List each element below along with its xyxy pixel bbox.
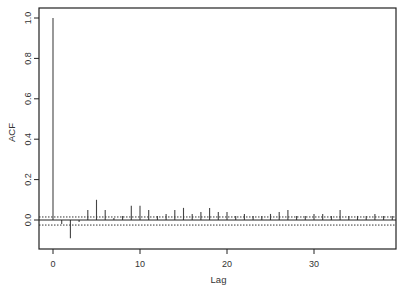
y-tick-label: 0.4 [23, 133, 33, 146]
confidence-bounds [39, 217, 396, 225]
x-axis-label: Lag [211, 274, 227, 285]
plot-frame [39, 8, 396, 249]
y-tick-label: 0.2 [23, 173, 33, 186]
y-tick-label: 0.6 [23, 93, 33, 106]
acf-stems [53, 18, 392, 238]
y-tick-label: 0.0 [23, 214, 33, 227]
y-axis-label: ACF [6, 123, 17, 142]
x-axis: 0102030 [50, 249, 319, 269]
y-axis: 0.00.20.40.60.81.0 [23, 12, 39, 227]
acf-plot: 0.00.20.40.60.81.0 0102030 Lag ACF [0, 0, 406, 292]
x-tick-label: 0 [50, 259, 55, 269]
x-tick-label: 10 [135, 259, 145, 269]
y-tick-label: 1.0 [23, 12, 33, 25]
x-tick-label: 30 [309, 259, 319, 269]
y-tick-label: 0.8 [23, 52, 33, 65]
x-tick-label: 20 [222, 259, 232, 269]
